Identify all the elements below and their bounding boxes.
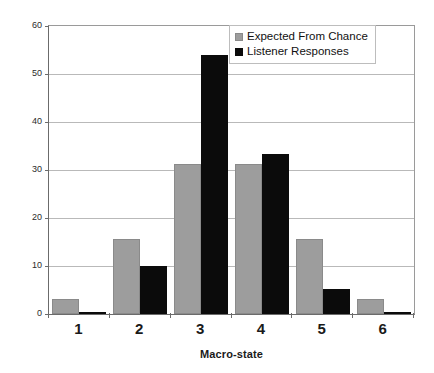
x-tick-mark xyxy=(291,313,292,318)
bars-layer xyxy=(49,26,414,314)
y-tick-label: 50 xyxy=(32,69,42,78)
expected-swatch-icon xyxy=(235,33,243,41)
x-tick-label-1: 1 xyxy=(74,320,82,337)
bar-expected-2 xyxy=(113,239,140,314)
bar-listener-3 xyxy=(201,55,228,314)
bar-expected-3 xyxy=(174,164,201,314)
y-tick-label: 20 xyxy=(32,213,42,222)
legend-label-listener-responses: Listener Responses xyxy=(247,45,349,58)
y-tick-label: 0 xyxy=(37,309,42,318)
x-tick-mark xyxy=(48,313,49,318)
y-axis-tick-labels: 0102030405060 xyxy=(0,0,46,373)
x-tick-label-3: 3 xyxy=(196,320,204,337)
bar-expected-6 xyxy=(357,299,384,314)
legend-label-expected-from-chance: Expected From Chance xyxy=(247,30,368,43)
x-tick-label-5: 5 xyxy=(318,320,326,337)
bar-listener-5 xyxy=(323,289,350,314)
x-tick-mark xyxy=(109,313,110,318)
bar-expected-5 xyxy=(296,239,323,314)
bar-expected-1 xyxy=(52,299,79,314)
bar-chart-figure: Frequency (%) 0102030405060 123456 Macro… xyxy=(0,0,434,373)
x-tick-label-4: 4 xyxy=(257,320,265,337)
listener-swatch-icon xyxy=(235,48,243,56)
bar-expected-4 xyxy=(235,164,262,314)
x-axis-title: Macro-state xyxy=(48,348,415,360)
x-tick-mark xyxy=(352,313,353,318)
bar-listener-2 xyxy=(140,266,167,314)
x-tick-mark xyxy=(170,313,171,318)
legend-item-listener-responses: Listener Responses xyxy=(235,44,368,59)
plot-area xyxy=(48,25,415,315)
legend-item-expected-from-chance: Expected From Chance xyxy=(235,29,368,44)
y-tick-label: 60 xyxy=(32,21,42,30)
y-tick-label: 30 xyxy=(32,165,42,174)
x-tick-label-6: 6 xyxy=(378,320,386,337)
x-tick-mark xyxy=(231,313,232,318)
bar-listener-4 xyxy=(262,154,289,314)
x-axis-tick-labels: 123456 xyxy=(48,320,415,342)
x-tick-label-2: 2 xyxy=(135,320,143,337)
y-tick-label: 10 xyxy=(32,261,42,270)
chart-legend: Expected From Chance Listener Responses xyxy=(229,25,376,64)
x-tick-mark xyxy=(413,313,414,318)
y-tick-label: 40 xyxy=(32,117,42,126)
